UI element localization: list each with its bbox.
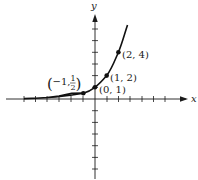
svg-text:): ) [76,75,82,93]
x-axis-label: x [191,93,197,104]
label-point-1-2: (1, 2) [110,72,137,83]
point-1-2 [104,73,109,78]
point-0-1 [93,85,98,90]
y-axis-arrow-icon [92,14,97,22]
exponential-graph: x y (2, 4) (1, 2) [0,0,198,180]
y-axis-label: y [90,0,97,11]
point-2-4 [116,50,121,55]
label-point-0-1: (0, 1) [99,84,126,95]
label-point-neg1-half: ( −1, 1 2 ) [47,74,81,93]
x-axis-arrow-icon [180,96,188,101]
point-neg1-half [81,91,86,96]
label-point-2-4: (2, 4) [122,49,149,60]
svg-text:−1,: −1, [53,76,71,87]
